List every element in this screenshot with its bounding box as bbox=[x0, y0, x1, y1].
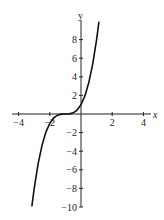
x-tick-label: 2 bbox=[110, 117, 115, 128]
x-axis-label: x bbox=[152, 109, 158, 120]
y-tick-label: 8 bbox=[72, 34, 77, 45]
x-axis: x −4−224 bbox=[12, 109, 158, 128]
y-tick-label: 6 bbox=[72, 53, 77, 64]
y-tick-label: 2 bbox=[72, 90, 77, 101]
y-axis-label: y bbox=[78, 10, 83, 21]
function-graph: x −4−224 y −10−8−6−4−22468 bbox=[0, 0, 164, 220]
x-tick-label: −4 bbox=[13, 117, 24, 128]
y-axis: y −10−8−6−4−22468 bbox=[61, 10, 83, 213]
y-tick-label: −10 bbox=[61, 202, 77, 213]
y-tick-label: −8 bbox=[66, 183, 77, 194]
y-tick-label: 4 bbox=[72, 71, 77, 82]
y-tick-label: −6 bbox=[66, 164, 77, 175]
y-tick-label: −4 bbox=[66, 146, 77, 157]
y-tick-label: −2 bbox=[66, 127, 77, 138]
x-tick-label: 4 bbox=[141, 117, 146, 128]
